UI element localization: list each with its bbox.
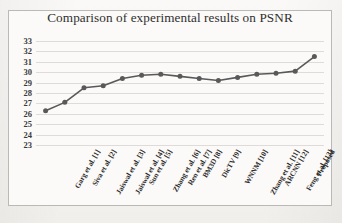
- data-point-marker: [43, 108, 48, 113]
- data-point-marker: [120, 76, 125, 81]
- data-point-marker: [293, 69, 298, 74]
- data-point-marker: [101, 83, 106, 88]
- y-axis-tick-label: 26: [24, 109, 33, 119]
- data-point-marker: [178, 74, 183, 79]
- y-axis-tick-label: 32: [24, 46, 33, 56]
- chart-title: Comparison of experimental results on PS…: [8, 10, 332, 26]
- y-axis-tick-label: 25: [24, 119, 33, 129]
- y-axis-tick-label: 33: [24, 36, 33, 46]
- data-point-marker: [235, 75, 240, 80]
- data-point-marker: [62, 100, 67, 105]
- y-axis-tick-label: 29: [24, 78, 33, 88]
- data-point-marker: [197, 76, 202, 81]
- y-axis-tick-label: 31: [24, 57, 33, 67]
- series-line: [46, 57, 315, 111]
- y-axis-tick-label: 24: [24, 130, 33, 140]
- data-point-marker: [254, 72, 259, 77]
- y-axis-tick-label: 23: [24, 140, 33, 150]
- data-point-marker: [82, 85, 87, 90]
- data-point-marker: [216, 78, 221, 83]
- data-point-marker: [274, 71, 279, 76]
- gridline: [36, 145, 324, 146]
- data-point-marker: [139, 73, 144, 78]
- plot-area: 3332313029282726252423: [36, 41, 324, 145]
- data-point-marker: [158, 72, 163, 77]
- y-axis-tick-label: 28: [24, 88, 33, 98]
- x-axis-tick-label: WNNM [10]: [243, 148, 270, 186]
- data-point-marker: [312, 54, 317, 59]
- psnr-line-series: [36, 41, 324, 145]
- x-axis-labels: Garg et al. [1]Siva et al. [2]Jaiswal et…: [36, 148, 324, 204]
- y-axis-tick-label: 27: [24, 98, 33, 108]
- y-axis-tick-label: 30: [24, 67, 33, 77]
